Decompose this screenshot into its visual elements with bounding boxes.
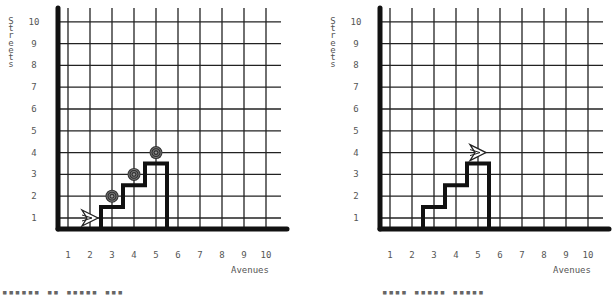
street-tick-label: 1: [31, 213, 36, 223]
avenue-tick-label: 7: [197, 250, 202, 260]
avenue-tick-label: 9: [241, 250, 246, 260]
avenue-tick-label: 3: [109, 250, 114, 260]
avenue-tick-label: 5: [153, 250, 158, 260]
avenue-tick-label: 10: [261, 250, 272, 260]
street-tick-label: 2: [31, 191, 36, 201]
avenue-tick-label: 7: [519, 250, 524, 260]
avenue-tick-label: 3: [431, 250, 436, 260]
avenue-tick-label: 1: [387, 250, 392, 260]
street-tick-label: 10: [351, 17, 362, 27]
street-tick-label: 5: [353, 126, 358, 136]
street-tick-label: 4: [31, 148, 36, 158]
street-tick-label: 1: [353, 213, 358, 223]
avenue-tick-label: 6: [175, 250, 180, 260]
right-caption: ▪▪▪▪ ▪▪▪▪▪ ▪▪▪▪▪: [382, 287, 485, 297]
street-tick-label: 4: [353, 148, 358, 158]
avenue-tick-label: 8: [219, 250, 224, 260]
avenue-tick-label: 2: [409, 250, 414, 260]
avenue-tick-label: 10: [583, 250, 594, 260]
avenue-tick-label: 6: [497, 250, 502, 260]
beeper-icon: [150, 146, 163, 159]
avenue-tick-label: 4: [131, 250, 136, 260]
avenue-tick-label: 5: [475, 250, 480, 260]
street-tick-label: 7: [353, 82, 358, 92]
street-tick-label: 8: [31, 60, 36, 70]
avenue-tick-label: 4: [453, 250, 458, 260]
street-tick-label: 5: [31, 126, 36, 136]
y-axis-label: Streets: [330, 16, 336, 69]
left-caption: ▪▪▪▪▪▪ ▪▪ ▪▪▪▪▪ ▪▪▪: [2, 287, 124, 297]
beeper-icon: [106, 190, 119, 203]
street-tick-label: 6: [353, 104, 358, 114]
svg-text:s: s: [330, 59, 335, 69]
street-tick-label: 8: [353, 60, 358, 70]
street-tick-label: 7: [31, 82, 36, 92]
street-tick-label: 2: [353, 191, 358, 201]
x-axis-label: Avenues: [553, 265, 591, 275]
svg-text:s: s: [8, 59, 13, 69]
avenue-tick-label: 9: [563, 250, 568, 260]
avenue-tick-label: 2: [87, 250, 92, 260]
x-axis-label: Avenues: [231, 265, 269, 275]
right-world: 1234567891012345678910AvenuesStreets: [330, 8, 609, 275]
street-tick-label: 10: [29, 17, 40, 27]
avenue-tick-label: 8: [541, 250, 546, 260]
avenue-tick-label: 1: [65, 250, 70, 260]
street-tick-label: 9: [353, 39, 358, 49]
y-axis-label: Streets: [8, 16, 14, 69]
street-tick-label: 3: [31, 169, 36, 179]
street-tick-label: 6: [31, 104, 36, 114]
beeper-icon: [128, 168, 141, 181]
street-tick-label: 3: [353, 169, 358, 179]
left-world: 1234567891012345678910AvenuesStreets: [8, 8, 287, 275]
street-tick-label: 9: [31, 39, 36, 49]
